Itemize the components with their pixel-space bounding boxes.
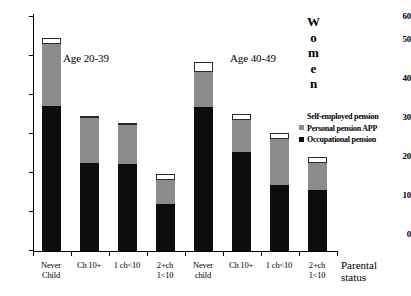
x-tick-mark-2 [109,251,110,256]
bar-seg-personal-pension-app [194,72,213,107]
bar-stack-g2-1-child-under-10 [270,133,289,251]
legend-item-self-employed-pension: Self-employed pension [299,111,378,123]
x-tick-mark-8 [337,251,338,256]
x-tick-mark-4 [185,251,186,256]
legend-swatch-personal-pension-app-icon [299,125,304,130]
bar-seg-personal-pension-app [270,139,289,185]
x-tick-mark-0 [33,251,34,256]
y-tick-label-10: 10 [385,191,411,200]
legend-swatch-occupational-pension-icon [299,137,304,142]
y-tick-mark-10 [29,211,33,212]
bar-seg-self-employed-pension [194,62,213,72]
bar-seg-occupational-pension [42,106,61,251]
bar-seg-personal-pension-app [156,180,175,204]
x-axis-title-line-2: status [341,271,377,283]
plot-area: 60 50 40 30 20 10 0 [0,0,411,296]
x-axis-title: Parental status [341,259,377,283]
x-tick-mark-6 [261,251,262,256]
y-tick-mark-40 [29,94,33,95]
x-axis-title-line-1: Parental [341,259,377,271]
y-tick-mark-50 [29,55,33,56]
y-tick-label-40: 40 [385,74,411,83]
group-title-age-40-49: Age 40-49 [230,52,276,64]
x-tick-mark-1 [71,251,72,256]
y-tick-mark-20 [29,172,33,173]
bar-seg-occupational-pension [156,204,175,251]
y-tick-label-0: 0 [385,230,411,239]
chart-container: 60 50 40 30 20 10 0 [0,0,411,296]
panel-label-women: Women [305,14,321,92]
x-tick-mark-7 [299,251,300,256]
y-tick-label-50: 50 [385,35,411,44]
bar-seg-occupational-pension [232,152,251,251]
bar-seg-occupational-pension [270,185,289,251]
bar-seg-personal-pension-app [80,118,99,163]
x-category-line-2: child [181,271,225,281]
legend-swatch-self-employed-pension-icon [299,114,304,119]
x-category-line-2: Child [29,271,73,281]
legend-label-occupational-pension: Occupational pension [307,135,376,144]
legend-item-personal-pension-app: Personal pension APP [299,123,378,135]
legend-label-self-employed-pension: Self-employed pension [307,112,378,121]
y-tick-mark-30 [29,133,33,134]
bar-seg-personal-pension-app [308,163,327,190]
bar-seg-personal-pension-app [232,120,251,152]
y-tick-label-60: 60 [385,12,411,21]
y-tick-label-30: 30 [385,113,411,122]
bar-seg-personal-pension-app [118,125,137,164]
y-tick-mark-60 [29,16,33,17]
bar-stack-g1-never-child [42,38,61,251]
bar-stack-g2-never-child [194,62,213,251]
group-title-age-20-39: Age 20-39 [63,52,109,64]
bar-stack-g1-ch-10plus [80,116,99,251]
x-category-label-7: 2+ch 1<10 [295,261,339,280]
legend-label-personal-pension-app: Personal pension APP [307,124,377,133]
x-category-line-2: 1<10 [295,271,339,281]
bar-seg-occupational-pension [194,107,213,251]
bar-seg-personal-pension-app [42,44,61,106]
bar-stack-g2-ch-10plus [232,114,251,251]
x-tick-mark-5 [223,251,224,256]
bar-seg-occupational-pension [118,164,137,251]
bar-stack-g2-2plus-children-1-under-10 [308,157,327,251]
chart-legend: Self-employed pension Personal pension A… [299,111,378,146]
legend-item-occupational-pension: Occupational pension [299,134,378,146]
y-tick-label-20: 20 [385,152,411,161]
y-axis-line [33,14,34,252]
bar-stack-g1-2plus-children-1-under-10 [156,174,175,251]
bar-stack-g1-1-child-under-10 [118,123,137,251]
x-tick-mark-3 [147,251,148,256]
bar-seg-occupational-pension [80,163,99,251]
bar-seg-occupational-pension [308,190,327,251]
